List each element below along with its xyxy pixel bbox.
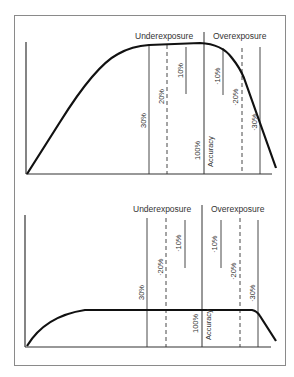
top-label-accuracy: Accuracy [206,136,215,167]
top-label-center: 100% [193,140,202,160]
exposure-diagram: Underexposure Overexposure 30% 20% 10% 1… [0,0,294,377]
bottom-curve [27,310,276,346]
top-header-overexposure: Overexposure [213,31,267,41]
bottom-label-minus30: 30% [137,285,146,300]
bottom-label-plus10: ·10% [210,235,219,253]
bottom-header-underexposure: Underexposure [133,204,191,214]
top-header-underexposure: Underexposure [135,31,193,41]
top-label-minus10: 10% [176,63,185,78]
top-label-plus20: ·20% [231,88,240,106]
top-label-plus10: ·10% [213,67,222,85]
top-label-minus30: 30% [139,113,148,128]
bottom-label-center: 100% [191,313,200,333]
bottom-label-plus30: ·30% [248,284,257,302]
bottom-label-plus20: ·20% [229,262,238,280]
top-curve [27,43,276,174]
bottom-label-minus10: ·10% [174,234,183,252]
bottom-header-overexposure: Overexposure [211,204,265,214]
top-panel: Underexposure Overexposure 30% 20% 10% 1… [26,31,276,174]
top-label-minus20: 20% [157,89,166,104]
bottom-panel: Underexposure Overexposure 30% ·20% ·10%… [25,204,276,347]
bottom-label-accuracy: Accuracy [204,309,213,340]
top-label-plus30: ·30% [250,113,259,131]
bottom-label-minus20: ·20% [156,258,165,276]
